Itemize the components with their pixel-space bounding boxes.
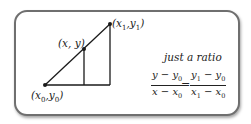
fraction-right: y1 − y0 x1 − x0 <box>190 69 226 102</box>
label-x0-y0: (x0,y0) <box>31 89 63 104</box>
label-x1-y1: (x1,y1) <box>112 17 144 32</box>
equals-sign: = <box>181 78 190 91</box>
point-start <box>43 83 47 87</box>
fraction-left: y − y0 x − x0 <box>151 69 183 102</box>
hypotenuse-line <box>45 24 110 85</box>
label-x-y: (x, y) <box>58 37 85 49</box>
caption-just-a-ratio: just a ratio <box>164 51 222 63</box>
